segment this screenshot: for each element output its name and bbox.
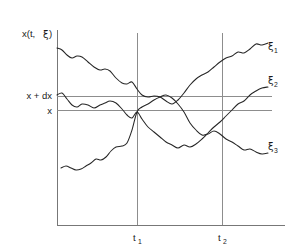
curve-xi3 (61, 95, 268, 170)
curve-label-xi3-subscript: 3 (274, 147, 278, 154)
y-axis-label-greek: ξ (43, 29, 49, 40)
curve-label-xi1-subscript: 1 (274, 47, 278, 54)
curve-group (57, 43, 268, 170)
sample-paths-plot: x(t, ξ ) x + dx x t 1 t 2 ξ 1 ξ 2 ξ (0, 0, 292, 250)
tick-label-t2: t 2 (218, 232, 227, 245)
value-label-x-plus-dx: x + dx (26, 90, 52, 101)
y-axis-label: x(t, ξ ) (22, 28, 52, 40)
tick-label-t1: t 1 (133, 232, 142, 245)
y-axis-label-main: x(t, (22, 28, 38, 39)
tick-label-t1-subscript: 1 (138, 238, 142, 245)
curve-xi1 (57, 43, 268, 104)
tick-label-t2-letter: t (218, 232, 221, 243)
curve-label-xi3-greek: ξ (268, 141, 274, 152)
curve-label-xi2-subscript: 2 (274, 81, 278, 88)
value-label-x: x (47, 105, 52, 116)
figure-root: x(t, ξ ) x + dx x t 1 t 2 ξ 1 ξ 2 ξ (0, 0, 292, 250)
curve-label-xi2: ξ 2 (268, 75, 278, 88)
curve-label-xi3: ξ 3 (268, 141, 278, 154)
tick-label-t1-letter: t (133, 232, 136, 243)
y-axis-label-close: ) (49, 28, 52, 39)
curve-label-xi2-greek: ξ (268, 75, 274, 86)
tick-label-t2-subscript: 2 (223, 238, 227, 245)
curve-label-xi1: ξ 1 (268, 41, 278, 54)
curve-label-xi1-greek: ξ (268, 41, 274, 52)
